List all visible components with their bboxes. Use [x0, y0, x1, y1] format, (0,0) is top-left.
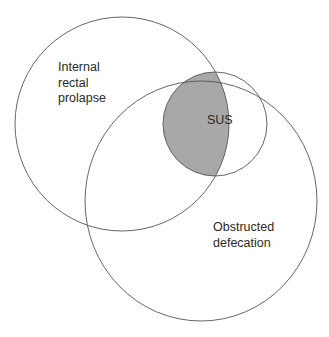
label-line: prolapse [58, 91, 106, 107]
label-line: Obstructed [213, 220, 274, 236]
label-line: rectal [58, 76, 106, 92]
venn-diagram [0, 0, 329, 337]
label-line: SUS [207, 113, 233, 129]
label-sus: SUS [207, 113, 233, 129]
label-line: defecation [213, 236, 274, 252]
label-internal-rectal-prolapse: Internal rectal prolapse [58, 60, 106, 107]
label-obstructed-defecation: Obstructed defecation [213, 220, 274, 251]
label-line: Internal [58, 60, 106, 76]
